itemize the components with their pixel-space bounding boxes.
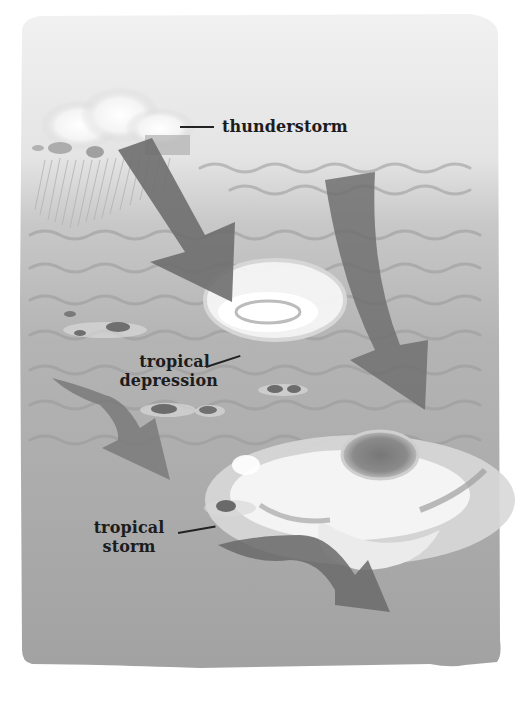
label-tropical-depression-line2: depression <box>100 371 218 390</box>
label-tropical-depression: tropical depression <box>100 352 218 390</box>
hurricane-illustration <box>0 0 524 706</box>
thunderstorm-leader-line <box>180 126 214 128</box>
label-tropical-storm-line2: storm <box>88 537 170 556</box>
label-tropical-storm-line1: tropical <box>88 518 170 537</box>
label-tropical-depression-line1: tropical <box>100 352 218 371</box>
label-thunderstorm: thunderstorm <box>222 117 348 136</box>
label-tropical-storm: tropical storm <box>88 518 170 556</box>
